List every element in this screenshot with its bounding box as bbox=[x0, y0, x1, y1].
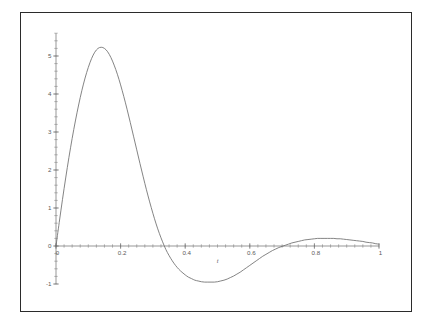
x-axis-label: t bbox=[217, 257, 219, 264]
svg-text:1: 1 bbox=[379, 249, 383, 256]
screenshot-root: 00.20.40.60.81 -1012345 t bbox=[0, 0, 431, 326]
svg-text:0.2: 0.2 bbox=[118, 249, 127, 256]
svg-text:2: 2 bbox=[48, 166, 52, 173]
svg-text:0.4: 0.4 bbox=[182, 249, 191, 256]
svg-text:1: 1 bbox=[48, 204, 52, 211]
svg-text:3: 3 bbox=[48, 128, 52, 135]
svg-text:0.6: 0.6 bbox=[247, 249, 256, 256]
y-axis-tick-labels: -1012345 bbox=[46, 52, 52, 287]
plot-canvas: 00.20.40.60.81 -1012345 t bbox=[21, 13, 413, 313]
svg-text:0.8: 0.8 bbox=[312, 249, 321, 256]
svg-text:0: 0 bbox=[48, 242, 52, 249]
plot-frame: 00.20.40.60.81 -1012345 t bbox=[20, 12, 412, 312]
x-axis-tick-labels: 00.20.40.60.81 bbox=[56, 249, 383, 256]
svg-text:4: 4 bbox=[48, 90, 52, 97]
svg-text:5: 5 bbox=[48, 52, 52, 59]
svg-text:0: 0 bbox=[56, 249, 60, 256]
svg-text:-1: -1 bbox=[46, 280, 52, 287]
